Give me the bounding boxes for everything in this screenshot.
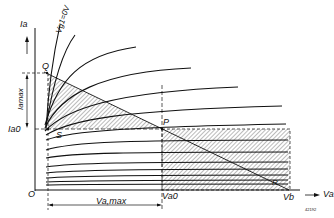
va0-label: Va0 — [162, 192, 178, 201]
y-axis-label: Ia — [20, 20, 28, 29]
ia0-label: Ia0 — [8, 125, 21, 134]
vamax-label: Va,max — [96, 197, 126, 206]
point-q-label: Q — [42, 62, 49, 71]
origin-label: O — [28, 190, 35, 199]
point-p-marker — [161, 128, 163, 130]
point-q-marker — [46, 72, 48, 74]
vb-label: Vb — [283, 193, 294, 202]
figure-code: 42192 — [305, 208, 316, 212]
iamax-label: Iamax — [17, 88, 25, 110]
x-axis-label: Va — [323, 190, 334, 199]
point-s-label: S — [56, 131, 62, 140]
point-s-marker — [47, 128, 49, 130]
point-r-label: R — [272, 179, 278, 187]
point-p-label: P — [163, 118, 169, 127]
